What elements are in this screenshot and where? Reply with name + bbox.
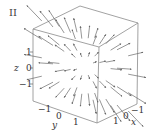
z-axis-label: z	[14, 64, 19, 73]
y-tick-label: −1	[38, 105, 51, 114]
x-tick-label: 0	[123, 112, 129, 121]
x-tick-label: 1	[113, 117, 119, 126]
z-tick-label: 1	[26, 48, 32, 57]
panel-label: II	[9, 8, 17, 18]
z-tick-label: −1	[19, 80, 32, 89]
x-tick-label: −1	[131, 106, 144, 115]
y-tick-label: 1	[73, 118, 79, 127]
z-tick-label: 0	[26, 64, 32, 73]
vector-field-figure: II z 1 0 −1 −1 0 1 y 1 0 −1 x	[0, 0, 149, 139]
y-axis-label: y	[52, 121, 57, 130]
x-axis-label: x	[131, 118, 136, 127]
